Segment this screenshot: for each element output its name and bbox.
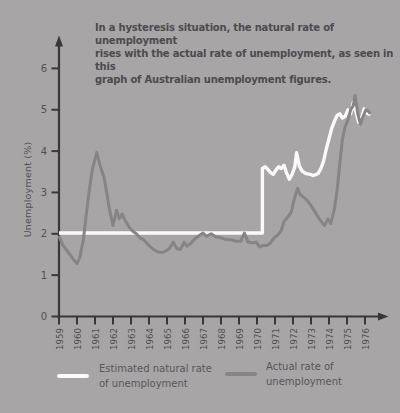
x-tick-label: 1964 [145,328,155,350]
x-tick-label: 1966 [181,328,191,350]
x-tick-label: 1963 [127,328,137,350]
natural-rate-legend-swatch [57,374,89,378]
x-tick-label: 1974 [325,328,335,350]
x-tick-label: 1962 [109,328,119,350]
natural-rate-line [59,102,370,233]
natural-rate-legend-label: Estimated natural rate of unemployment [99,361,239,391]
y-axis-arrow-icon [55,36,63,47]
y-tick-label: 6 [41,63,47,74]
x-tick-label: 1965 [163,328,173,350]
x-tick-label: 1975 [343,328,353,350]
y-tick-label: 3 [41,187,47,198]
x-tick-label: 1969 [235,328,245,350]
y-tick-label: 2 [41,228,47,239]
x-tick-label: 1976 [361,328,371,350]
y-axis-title: Unemployment (%) [22,125,33,255]
unemployment-chart: 0123456195919601961196219631964196519661… [0,0,400,413]
x-tick-label: 1970 [253,328,263,350]
x-axis-arrow-icon [378,312,389,320]
y-tick-label: 1 [41,270,47,281]
x-tick-label: 1971 [271,328,281,350]
actual-rate-legend-label: Actual rate of unemployment [266,359,386,389]
x-tick-label: 1961 [91,328,101,350]
chart-panel: In a hysteresis situation, the natural r… [0,0,400,413]
chart-legend: Estimated natural rate of unemployment A… [0,355,400,413]
x-tick-label: 1959 [55,328,65,350]
x-tick-label: 1973 [307,328,317,350]
y-tick-label: 4 [41,146,47,157]
actual-rate-line [59,95,370,263]
x-tick-label: 1960 [73,328,83,350]
actual-rate-legend-swatch [225,372,257,376]
x-tick-label: 1972 [289,328,299,350]
x-tick-label: 1967 [199,328,209,350]
y-tick-label: 0 [41,311,47,322]
y-tick-label: 5 [41,104,47,115]
x-tick-label: 1968 [217,328,227,350]
